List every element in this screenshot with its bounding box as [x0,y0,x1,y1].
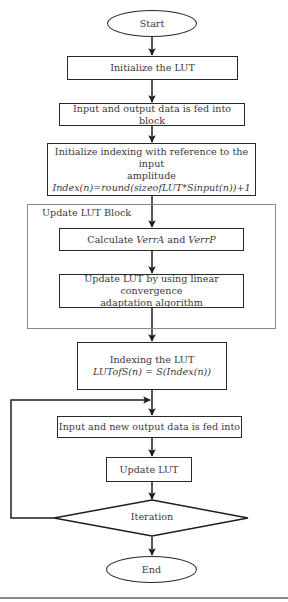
init-lut-step: Initialize the LUT [67,56,238,80]
update-lut-step: Update LUT [106,457,192,482]
end-label: End [142,564,161,576]
verra-var: VerrA [136,234,164,246]
index-formula: Index(n)=round(sizeofLUT*Sinput(n))+1 [52,182,250,194]
calc-verr-label-pre: Calculate [87,234,136,246]
update-linear-label-line2: adaptation algorithm [100,297,203,309]
update-linear-step: Update LUT by using linear convergence a… [59,274,244,308]
init-indexing-label-line1: Initialize indexing with reference to th… [48,146,255,170]
update-linear-label-line1: Update LUT by using linear convergence [60,273,243,297]
bottom-divider [0,597,288,599]
feed-data-label: Input and output data is fed into block [60,103,244,127]
feed-new-data-step: Input and new output data is fed into [57,416,242,438]
feed-data-step: Input and output data is fed into block [59,103,245,126]
init-indexing-step: Initialize indexing with reference to th… [47,143,256,196]
indexing-lut-step: Indexing the LUT LUTofS(n) = S(Index(n)) [77,342,227,390]
calc-verr-label-mid: and [164,234,188,246]
start-terminal: Start [107,10,197,37]
update-lut-label: Update LUT [119,464,178,476]
end-terminal: End [106,556,197,583]
verrp-var: VerrP [188,234,215,246]
lutofs-formula: LUTofS(n) = S(Index(n)) [93,366,211,378]
update-lut-block-label: Update LUT Block [42,207,131,218]
start-label: Start [140,18,165,30]
update-lut-block-group [27,204,276,329]
init-indexing-label-line2: amplitude [127,170,176,182]
calc-verr-step: Calculate VerrA and VerrP [59,228,244,251]
indexing-lut-label: Indexing the LUT [110,354,195,366]
init-lut-label: Initialize the LUT [110,62,195,74]
feed-new-data-label: Input and new output data is fed into [59,421,240,433]
iteration-decision-label: Iteration [102,511,202,522]
